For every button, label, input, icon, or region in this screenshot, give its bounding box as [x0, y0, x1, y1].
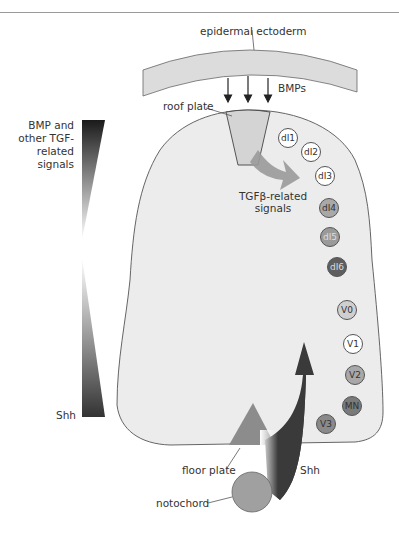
cell-dI4-label: dI4: [322, 203, 336, 213]
cell-dI4: dI4: [319, 198, 339, 218]
shh-gradient-wedge: [82, 257, 105, 417]
cell-V0-label: V0: [341, 305, 353, 315]
cell-dI2: dI2: [301, 142, 321, 162]
bmp-gradient-label-1: BMP and: [28, 119, 74, 132]
cell-dI1-label: dI1: [281, 133, 295, 143]
epidermal-ectoderm-band: [143, 50, 357, 96]
cell-dI5: dI5: [320, 227, 340, 247]
cell-V1-label: V1: [347, 339, 359, 349]
cell-V0: V0: [337, 300, 357, 320]
bmps-label: BMPs: [278, 82, 306, 95]
cell-V2-label: V2: [349, 370, 361, 380]
bmp-gradient-wedge: [82, 120, 105, 240]
cell-MN: MN: [342, 396, 362, 416]
bmp-gradient-label-4: signals: [37, 158, 74, 171]
roof-plate-label: roof plate: [163, 100, 214, 113]
epidermal-ectoderm-label: epidermal ectoderm: [200, 25, 306, 38]
cell-V2: V2: [345, 365, 365, 385]
cell-dI3-label: dI3: [318, 171, 332, 181]
notochord: [232, 472, 272, 512]
cell-dI6: dI6: [327, 257, 347, 277]
shh-arrow-label: Shh: [300, 464, 320, 477]
shh-gradient-label: Shh: [56, 409, 76, 422]
tgfb-label-2: signals: [235, 202, 311, 215]
cell-dI1: dI1: [278, 128, 298, 148]
bmp-arrows: [225, 76, 272, 102]
cell-V3: V3: [316, 414, 336, 434]
floor-plate-label: floor plate: [182, 464, 236, 477]
cell-V3-label: V3: [320, 419, 332, 429]
notochord-leader: [208, 497, 232, 503]
cell-dI2-label: dI2: [304, 147, 318, 157]
cell-dI6-label: dI6: [330, 262, 344, 272]
notochord-label: notochord: [156, 497, 209, 510]
cell-dI5-label: dI5: [323, 232, 337, 242]
cell-MN-label: MN: [345, 401, 360, 411]
bmp-gradient-label-3: related: [37, 145, 74, 158]
bmp-gradient-label-2: other TGF-: [18, 132, 74, 145]
cell-dI3: dI3: [315, 166, 335, 186]
cell-V1: V1: [343, 334, 363, 354]
